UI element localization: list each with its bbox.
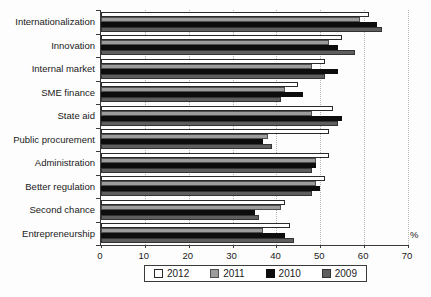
legend-item-2012: 2012 bbox=[154, 268, 189, 279]
category-label-better-regulation: Better regulation bbox=[0, 175, 95, 199]
x-axis-tick-0 bbox=[101, 245, 102, 248]
x-axis-tick-label-0: 0 bbox=[97, 250, 102, 261]
x-axis-tick-70 bbox=[408, 245, 409, 248]
y-axis-tick bbox=[96, 104, 100, 105]
plot-area bbox=[100, 10, 408, 246]
x-axis-tick-label-70: 70 bbox=[402, 250, 413, 261]
y-axis-tick bbox=[96, 245, 100, 246]
bar-group-sme-finance bbox=[101, 81, 408, 105]
bar-innovation-2009 bbox=[101, 50, 355, 55]
legend-item-2009: 2009 bbox=[322, 268, 357, 279]
bar-group-public-procurement bbox=[101, 128, 408, 152]
bar-group-entrepreneurship bbox=[101, 222, 408, 246]
x-axis-tick-label-40: 40 bbox=[270, 250, 281, 261]
bar-group-administration bbox=[101, 151, 408, 175]
legend-swatch-2010 bbox=[266, 269, 275, 278]
category-label-public-procurement: Public procurement bbox=[0, 128, 95, 152]
bar-entrepreneurship-2009 bbox=[101, 238, 294, 243]
category-label-innovation: Innovation bbox=[0, 34, 95, 58]
legend-label-2010: 2010 bbox=[279, 268, 301, 279]
y-axis-tick bbox=[96, 198, 100, 199]
category-label-internal-market: Internal market bbox=[0, 57, 95, 81]
legend-label-2012: 2012 bbox=[167, 268, 189, 279]
category-label-administration: Administration bbox=[0, 151, 95, 175]
category-label-second-chance: Second chance bbox=[0, 198, 95, 222]
bar-second-chance-2009 bbox=[101, 215, 259, 220]
bar-public-procurement-2009 bbox=[101, 144, 272, 149]
percent-axis-label: % bbox=[410, 229, 418, 240]
y-axis-tick bbox=[96, 57, 100, 58]
legend-swatch-2012 bbox=[154, 269, 163, 278]
x-axis-tick-50 bbox=[320, 245, 321, 248]
x-axis-tick-40 bbox=[276, 245, 277, 248]
gridline-70 bbox=[408, 10, 409, 245]
x-axis-tick-20 bbox=[189, 245, 190, 248]
x-axis-tick-label-10: 10 bbox=[139, 250, 150, 261]
x-axis-tick-label-60: 60 bbox=[358, 250, 369, 261]
y-axis-tick bbox=[96, 81, 100, 82]
bar-chart: % 2012201120102009 InternationalizationI… bbox=[0, 0, 431, 297]
x-axis-tick-label-30: 30 bbox=[226, 250, 237, 261]
y-axis-tick bbox=[96, 34, 100, 35]
y-axis-tick bbox=[96, 10, 100, 11]
x-axis-tick-label-20: 20 bbox=[182, 250, 193, 261]
bar-group-second-chance bbox=[101, 198, 408, 222]
category-label-internationalization: Internationalization bbox=[0, 10, 95, 34]
bar-internationalization-2009 bbox=[101, 27, 382, 32]
bar-group-better-regulation bbox=[101, 175, 408, 199]
x-axis-tick-30 bbox=[233, 245, 234, 248]
y-axis-tick bbox=[96, 175, 100, 176]
x-axis-tick-label-50: 50 bbox=[314, 250, 325, 261]
category-label-entrepreneurship: Entrepreneurship bbox=[0, 222, 95, 246]
bar-administration-2009 bbox=[101, 168, 312, 173]
y-axis-tick bbox=[96, 151, 100, 152]
bar-group-internal-market bbox=[101, 57, 408, 81]
category-label-state-aid: State aid bbox=[0, 104, 95, 128]
x-axis-tick-10 bbox=[145, 245, 146, 248]
bar-group-innovation bbox=[101, 34, 408, 58]
x-axis-tick-60 bbox=[364, 245, 365, 248]
bar-better-regulation-2009 bbox=[101, 191, 312, 196]
legend-item-2010: 2010 bbox=[266, 268, 301, 279]
y-axis-tick bbox=[96, 128, 100, 129]
legend: 2012201120102009 bbox=[144, 265, 367, 282]
bar-internal-market-2009 bbox=[101, 74, 325, 79]
y-axis-tick bbox=[96, 222, 100, 223]
bar-group-state-aid bbox=[101, 104, 408, 128]
legend-label-2009: 2009 bbox=[335, 268, 357, 279]
legend-label-2011: 2011 bbox=[223, 268, 245, 279]
bar-state-aid-2009 bbox=[101, 121, 338, 126]
legend-swatch-2009 bbox=[322, 269, 331, 278]
bar-sme-finance-2009 bbox=[101, 97, 281, 102]
legend-item-2011: 2011 bbox=[210, 268, 245, 279]
bar-group-internationalization bbox=[101, 10, 408, 34]
category-label-sme-finance: SME finance bbox=[0, 81, 95, 105]
legend-swatch-2011 bbox=[210, 269, 219, 278]
